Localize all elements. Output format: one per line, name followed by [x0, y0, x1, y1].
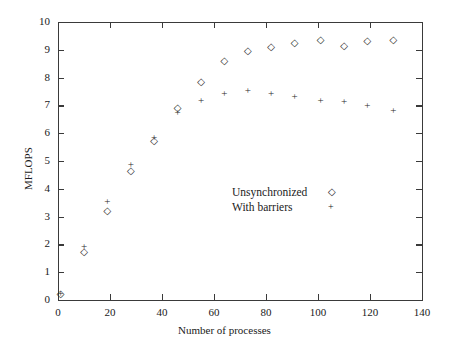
x-tick-label: 100 — [298, 306, 338, 318]
y-tick-label: 6 — [20, 126, 50, 138]
x-axis-title: Number of processes — [178, 324, 271, 336]
y-tick-label: 0 — [20, 293, 50, 305]
y-tick-right — [416, 244, 422, 245]
y-tick — [58, 272, 64, 273]
y-tick-label: 7 — [20, 98, 50, 110]
plot-frame-top — [58, 22, 423, 23]
x-tick-label: 0 — [38, 306, 78, 318]
y-tick-right — [416, 78, 422, 79]
x-tick — [214, 294, 215, 300]
y-tick — [58, 217, 64, 218]
x-tick — [162, 294, 163, 300]
y-tick-right — [416, 50, 422, 51]
x-tick-label: 140 — [402, 306, 442, 318]
x-tick-label: 20 — [90, 306, 130, 318]
chart-page: 020406080100120140012345678910 ◇◇◇◇◇◇◇◇◇… — [0, 0, 456, 354]
x-tick-top — [266, 22, 267, 28]
y-tick — [58, 50, 64, 51]
x-tick — [318, 294, 319, 300]
legend-symbol-plus: + — [328, 201, 334, 212]
x-axis-line — [58, 300, 423, 301]
y-tick-right — [416, 133, 422, 134]
x-tick-label: 120 — [350, 306, 390, 318]
y-tick-right — [416, 161, 422, 162]
y-tick-label: 9 — [20, 43, 50, 55]
y-axis-title: MFLOPS — [22, 147, 34, 190]
x-tick — [110, 294, 111, 300]
x-tick-label: 60 — [194, 306, 234, 318]
y-tick-right — [416, 105, 422, 106]
x-tick — [266, 294, 267, 300]
x-tick-top — [214, 22, 215, 28]
y-tick-label: 8 — [20, 71, 50, 83]
y-tick — [58, 133, 64, 134]
y-tick — [58, 161, 64, 162]
y-tick — [58, 244, 64, 245]
y-tick-right — [416, 189, 422, 190]
y-tick-right — [416, 217, 422, 218]
legend-symbol-diamond: ◇ — [328, 186, 336, 197]
x-tick-top — [162, 22, 163, 28]
y-tick-label: 2 — [20, 237, 50, 249]
x-tick-label: 80 — [246, 306, 286, 318]
y-tick-label: 1 — [20, 265, 50, 277]
y-tick-label: 10 — [20, 15, 50, 27]
x-tick-top — [318, 22, 319, 28]
y-tick-label: 3 — [20, 210, 50, 222]
legend-label-with-barriers: With barriers — [232, 201, 293, 213]
y-tick — [58, 105, 64, 106]
y-tick-right — [416, 272, 422, 273]
x-tick-top — [110, 22, 111, 28]
legend-label-unsynchronized: Unsynchronized — [232, 186, 307, 198]
x-tick-label: 40 — [142, 306, 182, 318]
x-tick — [370, 294, 371, 300]
y-tick — [58, 78, 64, 79]
x-tick-top — [370, 22, 371, 28]
y-tick — [58, 189, 64, 190]
scatter-plot: 020406080100120140012345678910 ◇◇◇◇◇◇◇◇◇… — [0, 0, 456, 354]
